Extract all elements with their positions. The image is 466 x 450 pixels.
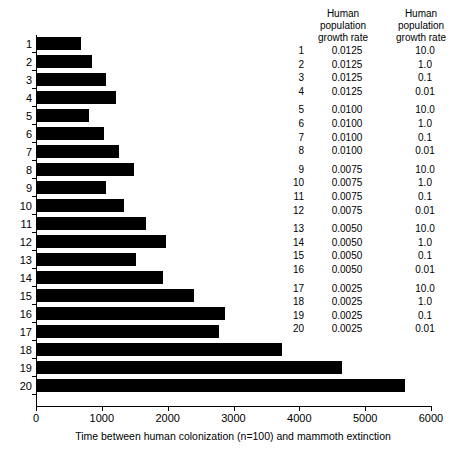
legend-row-index: 11: [282, 190, 308, 204]
legend-table-row: 30.01250.1: [282, 71, 464, 85]
legend-table-row: 10.012510.0: [282, 44, 464, 58]
legend-row-value-col1: 0.0100: [308, 144, 386, 158]
legend-row-index: 14: [282, 236, 308, 250]
legend-table: Human population growth rate Human popul…: [282, 8, 464, 336]
y-axis-tick-label: 18: [2, 342, 32, 358]
legend-row-value-col2: 10.0: [386, 44, 464, 58]
y-axis-tick-label: 9: [2, 180, 32, 196]
legend-row-value-col1: 0.0050: [308, 249, 386, 263]
legend-table-row: 150.00500.1: [282, 249, 464, 263]
bar: [36, 343, 282, 356]
legend-header-col1-line-3: growth rate: [304, 32, 382, 44]
bar-row: [36, 377, 436, 395]
legend-row-value-col2: 0.01: [386, 85, 464, 99]
legend-table-row: 200.00250.01: [282, 322, 464, 336]
legend-row-value-col2: 1.0: [386, 176, 464, 190]
legend-row-value-col1: 0.0075: [308, 176, 386, 190]
legend-row-index: 4: [282, 85, 308, 99]
legend-row-value-col2: 1.0: [386, 58, 464, 72]
y-axis-tick: [32, 394, 36, 395]
legend-table-row: 50.010010.0: [282, 103, 464, 117]
legend-row-value-col1: 0.0075: [308, 204, 386, 218]
bar: [36, 379, 405, 392]
bar: [36, 109, 89, 122]
legend-row-index: 15: [282, 249, 308, 263]
bar: [36, 145, 119, 158]
legend-row-value-col1: 0.0125: [308, 44, 386, 58]
legend-row-value-col2: 1.0: [386, 236, 464, 250]
legend-table-row: 160.00500.01: [282, 263, 464, 277]
y-axis-tick-label: 7: [2, 144, 32, 160]
legend-row-index: 3: [282, 71, 308, 85]
legend-row-value-col2: 0.01: [386, 263, 464, 277]
bar: [36, 289, 194, 302]
legend-table-row: 130.005010.0: [282, 222, 464, 236]
legend-row-value-col1: 0.0125: [308, 71, 386, 85]
legend-row-value-col2: 1.0: [386, 117, 464, 131]
bar: [36, 253, 136, 266]
x-axis-tick-label: 6000: [406, 411, 456, 425]
legend-header-col2-line-2: population: [382, 20, 460, 32]
x-axis-tick-label: 3000: [209, 411, 259, 425]
bar: [36, 91, 116, 104]
legend-row-value-col1: 0.0075: [308, 190, 386, 204]
legend-header-col1-line-1: Human: [304, 8, 382, 20]
y-axis-tick-label: 19: [2, 360, 32, 376]
x-axis-tick-label: 5000: [340, 411, 390, 425]
legend-row-value-col2: 0.01: [386, 322, 464, 336]
y-axis-tick-label: 16: [2, 306, 32, 322]
legend-row-index: 5: [282, 103, 308, 117]
legend-row-value-col2: 0.1: [386, 190, 464, 204]
legend-header-col1: Human population growth rate: [304, 8, 382, 44]
y-axis-tick-label: 13: [2, 252, 32, 268]
legend-row-value-col1: 0.0050: [308, 222, 386, 236]
legend-row-value-col2: 0.01: [386, 204, 464, 218]
y-axis-tick-label: 6: [2, 126, 32, 142]
legend-row-value-col1: 0.0125: [308, 85, 386, 99]
x-axis-title: Time between human colonization (n=100) …: [0, 430, 466, 442]
legend-table-header: Human population growth rate Human popul…: [282, 8, 464, 44]
legend-row-value-col1: 0.0100: [308, 103, 386, 117]
legend-row-value-col2: 0.1: [386, 249, 464, 263]
legend-row-value-col2: 10.0: [386, 163, 464, 177]
legend-row-index: 20: [282, 322, 308, 336]
y-axis-tick-label: 2: [2, 54, 32, 70]
bar: [36, 361, 342, 374]
bar: [36, 199, 124, 212]
x-axis-tick-label: 0: [11, 411, 61, 425]
legend-row-index: 2: [282, 58, 308, 72]
legend-row-value-col2: 10.0: [386, 222, 464, 236]
legend-table-row: 20.01251.0: [282, 58, 464, 72]
legend-row-index: 8: [282, 144, 308, 158]
x-axis-tick-label: 4000: [274, 411, 324, 425]
y-axis-tick-label: 8: [2, 162, 32, 178]
legend-table-row: 100.00751.0: [282, 176, 464, 190]
legend-row-value-col1: 0.0100: [308, 131, 386, 145]
legend-row-index: 9: [282, 163, 308, 177]
legend-row-value-col1: 0.0050: [308, 263, 386, 277]
x-axis-tick-label: 1000: [77, 411, 127, 425]
legend-table-row: 170.002510.0: [282, 282, 464, 296]
legend-table-row: 40.01250.01: [282, 85, 464, 99]
y-axis-tick-label: 1: [2, 36, 32, 52]
legend-row-index: 7: [282, 131, 308, 145]
legend-row-value-col1: 0.0025: [308, 322, 386, 336]
y-axis-tick-label: 10: [2, 198, 32, 214]
legend-header-col2-line-1: Human: [382, 8, 460, 20]
y-axis-tick-label: 4: [2, 90, 32, 106]
legend-row-value-col2: 0.1: [386, 309, 464, 323]
legend-row-index: 10: [282, 176, 308, 190]
bar-row: [36, 341, 436, 359]
legend-table-row: 70.01000.1: [282, 131, 464, 145]
y-axis-tick-label: 15: [2, 288, 32, 304]
legend-table-row: 120.00750.01: [282, 204, 464, 218]
y-axis-tick-label: 17: [2, 324, 32, 340]
legend-row-value-col1: 0.0025: [308, 282, 386, 296]
legend-table-row: 110.00750.1: [282, 190, 464, 204]
bar: [36, 55, 92, 68]
bar: [36, 307, 225, 320]
legend-table-row: 90.007510.0: [282, 163, 464, 177]
legend-row-value-col1: 0.0125: [308, 58, 386, 72]
legend-row-index: 18: [282, 295, 308, 309]
legend-row-value-col2: 0.1: [386, 131, 464, 145]
